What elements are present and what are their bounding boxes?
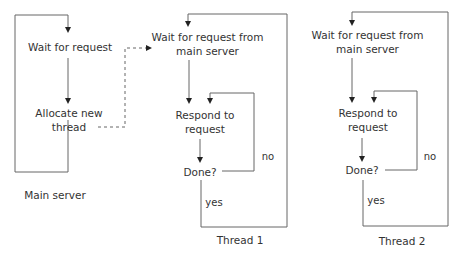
thread2-caption: Thread 2 [372, 234, 432, 248]
thread1-respond-to-done-edge [197, 139, 203, 163]
thread1-respond-node-line2: request [165, 122, 245, 136]
thread1-yes-label: yes [203, 196, 225, 210]
thread1-wait-to-respond-edge [186, 60, 192, 104]
thread2-done-node: Done? [342, 163, 382, 177]
main-loop-edge [15, 15, 71, 172]
thread2-respond-node-line1: Respond to [328, 106, 408, 120]
thread2-wait-to-respond-edge [349, 58, 355, 103]
thread1-respond-node-line1: Respond to [165, 108, 245, 122]
thread1-done-node: Done? [180, 165, 220, 179]
main-wait-node: Wait for request [28, 40, 110, 54]
thread2-respond-to-done-edge [359, 138, 365, 162]
main-allocate-node-line1: Allocate new [28, 106, 110, 120]
thread1-no-label: no [258, 150, 278, 164]
thread2-yes-label: yes [365, 194, 387, 208]
thread1-wait-node-line2: main server [150, 44, 265, 58]
thread1-caption: Thread 1 [210, 233, 270, 247]
main-allocate-node-line2: thread [28, 120, 110, 134]
thread2-no-label: no [420, 150, 440, 164]
thread2-respond-node-line2: request [328, 120, 408, 134]
thread2-wait-node-line1: Wait for request from [310, 28, 425, 42]
thread1-wait-node-line1: Wait for request from [150, 30, 265, 44]
thread2-wait-node-line2: main server [310, 42, 425, 56]
main-wait-to-allocate-edge [65, 58, 71, 104]
main-server-caption: Main server [20, 188, 90, 202]
